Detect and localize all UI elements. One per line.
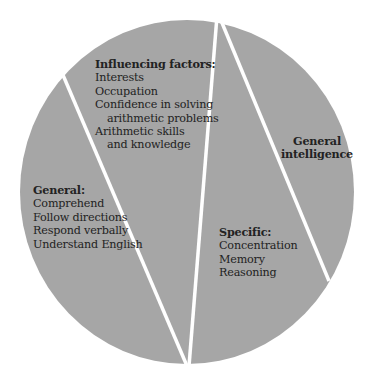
segment-heading: General: <box>33 184 143 197</box>
segment-general: General: Comprehend Follow directions Re… <box>33 184 143 251</box>
segment-item: Comprehend <box>33 197 143 210</box>
segment-item: Arithmetic skills <box>95 125 219 138</box>
segment-influencing-factors: Influencing factors: Interests Occupatio… <box>95 58 219 152</box>
segment-item: Follow directions <box>33 211 143 224</box>
segment-item: Concentration <box>219 239 298 252</box>
segment-item: Confidence in solving <box>95 98 219 111</box>
segment-specific: Specific: Concentration Memory Reasoning <box>219 226 298 280</box>
segment-item: Understand English <box>33 238 143 251</box>
segment-item: Occupation <box>95 85 219 98</box>
segment-heading: Specific: <box>219 226 298 239</box>
segment-general-intelligence: General intelligence <box>281 135 353 162</box>
segment-item: Respond verbally <box>33 224 143 237</box>
segment-item: Interests <box>95 71 219 84</box>
segment-item: Memory <box>219 253 298 266</box>
segment-heading: intelligence <box>281 148 353 161</box>
segment-item: arithmetic problems <box>95 112 219 125</box>
segment-item: Reasoning <box>219 266 298 279</box>
segment-item: and knowledge <box>95 138 219 151</box>
segment-heading: General <box>281 135 353 148</box>
segment-heading: Influencing factors: <box>95 58 219 71</box>
